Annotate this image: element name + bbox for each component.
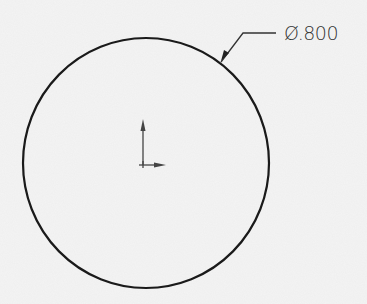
- drawing-canvas: [0, 0, 367, 304]
- paper-texture: [0, 0, 367, 304]
- diameter-dimension-label[interactable]: Ø.800: [284, 22, 338, 44]
